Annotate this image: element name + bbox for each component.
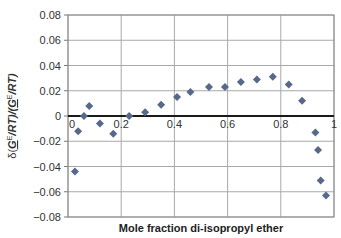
scatter-chart: 0.080.060.040.020−0.02−0.04−0.06−0.08 00… bbox=[0, 0, 341, 238]
y-tick-labels: 0.080.060.040.020−0.02−0.04−0.06−0.08 bbox=[33, 9, 61, 223]
y-tick-label: −0.02 bbox=[33, 135, 61, 147]
y-tick-label: −0.04 bbox=[33, 161, 61, 173]
y-tick-label: 0.06 bbox=[40, 34, 61, 46]
x-tick-label: 0.6 bbox=[220, 118, 235, 130]
diamond-marker bbox=[186, 88, 194, 96]
diamond-marker bbox=[322, 192, 330, 200]
diamond-marker bbox=[80, 112, 88, 120]
x-tick-label: 0.2 bbox=[114, 118, 129, 130]
y-tick-label: 0.04 bbox=[40, 60, 61, 72]
diamond-marker bbox=[237, 78, 245, 86]
x-tick-label: 0.8 bbox=[273, 118, 288, 130]
x-tick-label: 0 bbox=[69, 118, 75, 130]
x-tick-label: 0.4 bbox=[167, 118, 182, 130]
y-tick-label: 0.08 bbox=[40, 9, 61, 21]
y-axis-label: δ(GE/RT)/(GE/RT) bbox=[6, 73, 18, 159]
diamond-marker bbox=[85, 102, 93, 110]
diamond-marker bbox=[205, 83, 213, 91]
axes bbox=[64, 15, 334, 217]
diamond-marker bbox=[285, 80, 293, 88]
diamond-marker bbox=[317, 176, 325, 184]
y-tick-label: −0.06 bbox=[33, 186, 61, 198]
data-points bbox=[71, 73, 330, 200]
diamond-marker bbox=[96, 120, 104, 128]
y-tick-label: 0.02 bbox=[40, 85, 61, 97]
x-tick-label: 1 bbox=[331, 118, 337, 130]
y-tick-label: 0 bbox=[55, 110, 61, 122]
diamond-marker bbox=[71, 168, 79, 176]
x-axis-label: Mole fraction di-isopropyl ether bbox=[119, 222, 284, 234]
diamond-marker bbox=[74, 127, 82, 135]
diamond-marker bbox=[269, 73, 277, 81]
diamond-marker bbox=[109, 130, 117, 138]
diamond-marker bbox=[298, 97, 306, 105]
y-tick-label: −0.08 bbox=[33, 211, 61, 223]
diamond-marker bbox=[157, 101, 165, 109]
x-tick-labels: 00.20.40.60.81 bbox=[69, 118, 337, 130]
diamond-marker bbox=[311, 128, 319, 136]
diamond-marker bbox=[314, 146, 322, 154]
diamond-marker bbox=[253, 75, 261, 83]
